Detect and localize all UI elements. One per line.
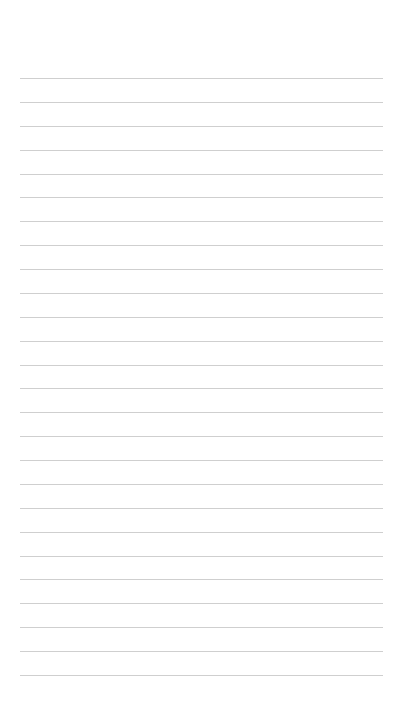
ruled-line (20, 675, 383, 676)
ruled-line (20, 508, 383, 509)
ruled-line (20, 484, 383, 485)
ruled-line (20, 269, 383, 270)
ruled-line (20, 341, 383, 342)
ruled-line (20, 78, 383, 79)
ruled-line (20, 126, 383, 127)
ruled-line (20, 102, 383, 103)
ruled-line (20, 388, 383, 389)
ruled-line (20, 556, 383, 557)
ruled-line (20, 150, 383, 151)
ruled-line (20, 579, 383, 580)
ruled-line (20, 365, 383, 366)
ruled-line (20, 651, 383, 652)
ruled-line (20, 627, 383, 628)
ruled-line (20, 174, 383, 175)
ruled-line (20, 532, 383, 533)
ruled-line (20, 412, 383, 413)
ruled-line (20, 197, 383, 198)
ruled-line (20, 317, 383, 318)
ruled-line (20, 460, 383, 461)
ruled-lines (20, 0, 383, 711)
ruled-line (20, 603, 383, 604)
ruled-line (20, 245, 383, 246)
ruled-line (20, 221, 383, 222)
ruled-line (20, 293, 383, 294)
ruled-line (20, 436, 383, 437)
lined-paper-page (0, 0, 401, 711)
